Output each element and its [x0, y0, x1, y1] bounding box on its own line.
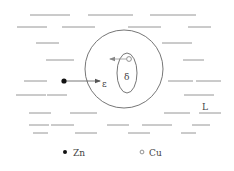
legend: Zn Cu: [63, 148, 162, 158]
diagram-canvas: ε δ L Zn Cu: [0, 0, 234, 171]
zn-atom-icon: [61, 78, 66, 83]
cu-atom-icon: [127, 57, 132, 62]
liquid-phase-lines: [16, 15, 221, 133]
phase-diagram-figure: ε δ L Zn Cu: [0, 0, 234, 171]
legend-cu-label: Cu: [149, 148, 162, 158]
epsilon-label: ε: [102, 79, 107, 89]
zn-legend-icon: [63, 150, 67, 154]
cu-legend-icon: [140, 150, 144, 154]
delta-label: δ: [124, 72, 129, 82]
liquid-label: L: [202, 102, 208, 112]
epsilon-phase-boundary: [85, 30, 163, 108]
legend-zn-label: Zn: [73, 148, 85, 158]
